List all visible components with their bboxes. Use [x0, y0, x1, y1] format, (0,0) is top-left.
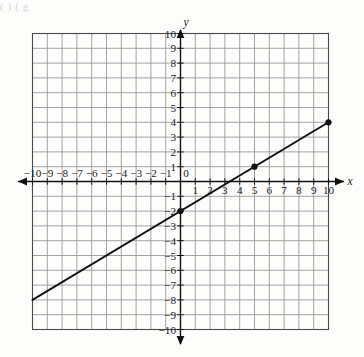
y-tick-label: 9	[170, 42, 176, 54]
origin-label: 0	[183, 167, 189, 179]
y-tick-label: −6	[164, 264, 176, 276]
y-tick-label: −3	[164, 220, 176, 232]
y-tick-label: 3	[170, 131, 176, 143]
x-tick-label: −10	[24, 167, 42, 179]
x-tick-label: −7	[71, 167, 83, 179]
x-tick-label: −3	[130, 167, 142, 179]
x-tick-label: −5	[101, 167, 113, 179]
y-tick-label: −10	[159, 324, 177, 336]
y-tick-label: 10	[165, 28, 177, 40]
y-tick-label: −9	[164, 309, 176, 321]
x-tick-label: 6	[267, 184, 273, 196]
x-tick-label: 5	[252, 184, 258, 196]
x-tick-label: −2	[145, 167, 157, 179]
coordinate-plane-figure: −10−9−8−7−6−5−4−3−2−10123456789101234567…	[0, 0, 364, 357]
y-tick-label: 5	[170, 102, 176, 114]
x-tick-label: 9	[311, 184, 317, 196]
x-tick-label: 4	[237, 184, 243, 196]
y-tick-label: −8	[164, 294, 176, 306]
x-tick-label: −9	[41, 167, 53, 179]
y-tick-label: 4	[170, 116, 176, 128]
plotted-point	[251, 164, 257, 170]
x-tick-label: 10	[323, 184, 335, 196]
y-tick-label: 2	[170, 146, 176, 158]
y-axis-label: y	[182, 16, 189, 29]
x-axis-label: x	[346, 175, 353, 187]
graph-page: ( ) ( g	[0, 0, 364, 357]
coordinate-plane-svg: −10−9−8−7−6−5−4−3−2−10123456789101234567…	[0, 0, 364, 357]
y-tick-label: −4	[164, 235, 176, 247]
y-tick-label: −5	[164, 250, 176, 262]
plotted-point	[325, 119, 331, 125]
y-tick-label: 1	[170, 161, 176, 173]
x-tick-label: −4	[115, 167, 127, 179]
axis-lines	[18, 30, 344, 344]
x-tick-label: 1	[193, 184, 199, 196]
x-axis-right-arrow-icon	[335, 178, 344, 186]
y-tick-label: 8	[170, 57, 176, 69]
x-tick-label: −6	[86, 167, 98, 179]
y-tick-label: 6	[170, 87, 176, 99]
y-tick-label: −1	[164, 190, 176, 202]
y-tick-label: 7	[170, 72, 176, 84]
y-axis-down-arrow-icon	[177, 336, 185, 345]
x-tick-label: 8	[296, 184, 302, 196]
x-tick-label: −8	[56, 167, 68, 179]
y-tick-label: −7	[164, 279, 176, 291]
plotted-point	[177, 208, 183, 214]
x-tick-label: 7	[281, 184, 287, 196]
